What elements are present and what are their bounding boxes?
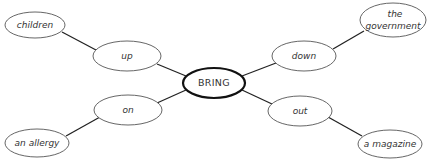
- edge-on-allergy: [66, 117, 100, 136]
- node-up: up: [93, 41, 161, 71]
- edge-up-bring: [157, 64, 186, 76]
- node-a-magazine: a magazine: [358, 130, 422, 158]
- node-out: out: [268, 96, 332, 126]
- node-label-line2: government: [365, 21, 420, 31]
- node-label: down: [292, 51, 317, 61]
- node-on: on: [94, 95, 162, 125]
- node-label: out: [293, 106, 308, 116]
- edge-bring-down: [242, 63, 276, 76]
- node-an-allergy: an allergy: [5, 129, 69, 157]
- mind-map-diagram: children up BRING down the government on…: [0, 0, 428, 166]
- node-label-line1: the: [388, 9, 403, 19]
- node-label: children: [17, 20, 54, 30]
- node-label: on: [122, 105, 134, 115]
- edge-bring-on: [157, 90, 186, 103]
- node-down: down: [272, 41, 336, 71]
- edge-children-up: [62, 32, 96, 50]
- edge-out-magazine: [328, 117, 362, 136]
- edge-down-government: [333, 31, 364, 49]
- node-children: children: [5, 12, 65, 38]
- edge-bring-out: [242, 90, 272, 104]
- node-label: a magazine: [364, 139, 417, 149]
- node-label: an allergy: [15, 138, 61, 148]
- node-label: up: [121, 51, 133, 61]
- center-label: BRING: [198, 77, 230, 88]
- node-the-government: the government: [360, 3, 426, 37]
- node-bring-center: BRING: [183, 68, 245, 98]
